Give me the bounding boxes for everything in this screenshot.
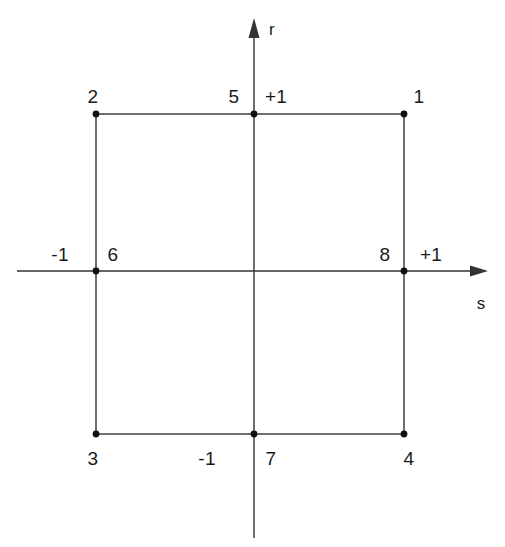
r-axis-label: r <box>269 20 275 39</box>
node-dot-2 <box>93 111 100 118</box>
tick-label-r-minus-one: -1 <box>198 449 215 468</box>
tick-label-r-plus-one: +1 <box>265 87 287 106</box>
r-axis-arrowhead <box>249 18 260 38</box>
node-dot-1 <box>401 111 408 118</box>
node-dot-7 <box>251 431 258 438</box>
node-dot-3 <box>93 431 100 438</box>
node-label-4: 4 <box>404 449 415 468</box>
node-label-1: 1 <box>414 87 425 106</box>
node-dot-4 <box>401 431 408 438</box>
node-dot-8 <box>401 268 408 275</box>
element-square-outline <box>96 114 404 434</box>
node-dot-6 <box>93 268 100 275</box>
s-axis-label: s <box>477 294 486 313</box>
node-label-2: 2 <box>88 87 99 106</box>
node-label-7: 7 <box>266 449 277 468</box>
node-label-3: 3 <box>88 449 99 468</box>
element-coordinate-diagram: r s 2 5 1 6 8 3 7 4 +1 -1 -1 +1 <box>0 0 505 547</box>
tick-label-s-minus-one: -1 <box>51 245 68 264</box>
diagram-canvas <box>0 0 505 547</box>
node-label-6: 6 <box>108 245 119 264</box>
s-axis-arrowhead <box>470 266 488 277</box>
node-dot-5 <box>251 111 258 118</box>
node-label-5: 5 <box>229 87 240 106</box>
node-label-8: 8 <box>380 245 391 264</box>
tick-label-s-plus-one: +1 <box>420 245 442 264</box>
